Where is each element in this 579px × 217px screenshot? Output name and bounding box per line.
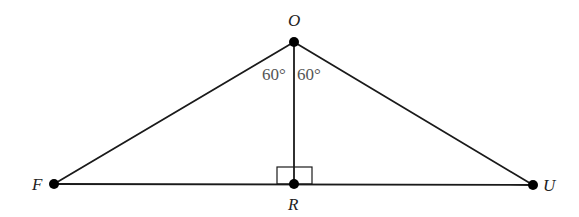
point-R [289, 179, 299, 189]
label-U: U [543, 176, 557, 195]
point-U [528, 180, 538, 190]
segment-OF [54, 42, 294, 184]
label-R: R [287, 195, 299, 214]
segment-OU [294, 42, 533, 185]
label-F: F [31, 175, 43, 194]
triangle-diagram: O F U R 60° 60° [0, 0, 579, 217]
angle-label-left: 60° [262, 65, 286, 84]
label-O: O [288, 11, 300, 30]
angle-label-right: 60° [297, 65, 321, 84]
point-O [289, 37, 299, 47]
point-F [49, 179, 59, 189]
